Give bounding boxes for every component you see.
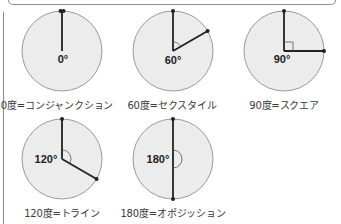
caption-sextile: 60度=セクスタイル xyxy=(127,97,216,112)
planet-dot xyxy=(95,177,99,181)
aspect-diagram: 0° 60° 90° 120° 180° xyxy=(0,0,341,224)
degree-label: 60° xyxy=(165,54,182,66)
planet-dot xyxy=(171,197,175,201)
aspect-conjunction: 0° xyxy=(22,9,102,91)
degree-label: 120° xyxy=(35,153,58,165)
caption-opposition: 180度=オポジッション xyxy=(120,205,225,220)
aspect-sextile: 60° xyxy=(133,9,213,91)
aspect-square: 90° xyxy=(244,9,326,91)
planet-dot xyxy=(62,9,66,13)
aspect-opposition: 180° xyxy=(133,117,213,201)
planet-dot xyxy=(282,9,286,13)
planet-dot xyxy=(171,117,175,121)
aspect-trine: 120° xyxy=(22,117,102,199)
planet-dot xyxy=(60,117,64,121)
caption-trine: 120度=トライン xyxy=(24,205,100,220)
planet-dot xyxy=(206,29,210,33)
degree-label: 0° xyxy=(58,53,69,65)
caption-conjunction: 0度=コンジャンクション xyxy=(1,97,113,112)
degree-label: 90° xyxy=(274,53,291,65)
degree-label: 180° xyxy=(147,153,170,165)
caption-square: 90度=スクエア xyxy=(249,97,319,112)
planet-dot xyxy=(171,9,175,13)
planet-dot xyxy=(322,49,326,53)
